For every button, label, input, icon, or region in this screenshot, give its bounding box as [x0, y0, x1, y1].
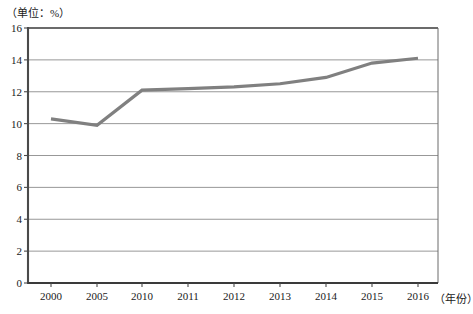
line-chart-plot — [0, 0, 473, 314]
x-tick-label: 2015 — [352, 290, 392, 302]
y-tick-label: 12 — [2, 86, 22, 98]
y-tick-label: 0 — [2, 277, 22, 289]
x-tick-label: 2005 — [77, 290, 117, 302]
y-tick-label: 16 — [2, 22, 22, 34]
x-tick-label: 2014 — [306, 290, 346, 302]
y-tick-label: 2 — [2, 245, 22, 257]
x-tick-label: 2000 — [31, 290, 71, 302]
x-tick-label: 2011 — [168, 290, 208, 302]
x-tick-label: 2013 — [260, 290, 300, 302]
y-tick-label: 6 — [2, 181, 22, 193]
x-tick-label: 2010 — [122, 290, 162, 302]
x-tick-label: 2016 — [398, 290, 438, 302]
x-tick-label: 2012 — [214, 290, 254, 302]
y-tick-label: 4 — [2, 213, 22, 225]
y-tick-label: 14 — [2, 54, 22, 66]
y-tick-label: 10 — [2, 118, 22, 130]
plot-border — [27, 27, 438, 283]
chart-container: （单位：%） 0246810121416 2000200520102011201… — [0, 0, 473, 314]
y-tick-label: 8 — [2, 150, 22, 162]
x-axis-title: （年份） — [434, 290, 473, 306]
